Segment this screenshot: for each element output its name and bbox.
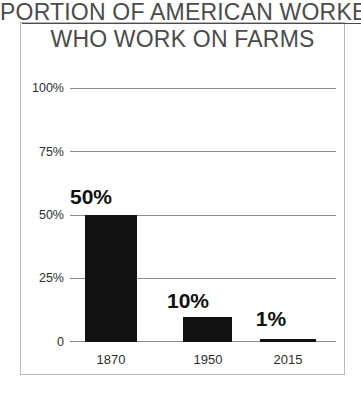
- bar-2015[interactable]: [260, 339, 316, 342]
- chart-title-line-1: PORTION OF AMERICAN WORKERS: [0, 0, 361, 24]
- x-category-label-1950: 1950: [177, 352, 239, 367]
- x-category-label-2015: 2015: [257, 352, 319, 367]
- chart-title-line-2: WHO WORK ON FARMS: [20, 26, 345, 52]
- bar-1950[interactable]: [183, 317, 232, 342]
- x-category-label-1870: 1870: [80, 352, 142, 367]
- chart-container: PORTION OF AMERICAN WORKERS WHO WORK ON …: [0, 0, 361, 394]
- gridline-100: [70, 88, 336, 89]
- bar-1870[interactable]: [85, 215, 137, 342]
- bar-value-1950: 10%: [157, 290, 219, 312]
- bar-value-1870: 50%: [60, 186, 122, 208]
- bar-value-2015: 1%: [240, 308, 302, 330]
- gridline-75: [70, 151, 336, 152]
- title-underline: [22, 23, 361, 24]
